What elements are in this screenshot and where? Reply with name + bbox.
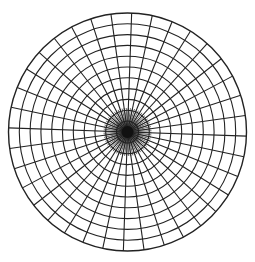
- polar-grid-center-hub: [122, 126, 134, 138]
- polar-grid: [0, 0, 255, 262]
